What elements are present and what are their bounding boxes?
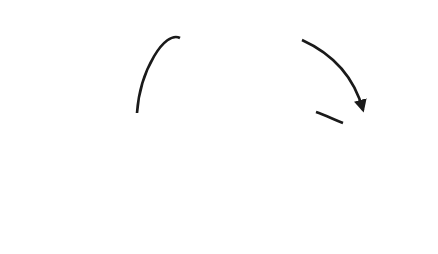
flow-diagram — [0, 0, 438, 254]
connector-supplier-to-merchandise — [316, 112, 343, 123]
arrow-merchandise-to-company-line — [178, 108, 180, 118]
arrow-merchandise-inventory-to-company — [177, 110, 178, 120]
connector-company-to-purchase-order — [137, 37, 180, 113]
arrow-merchandise-to-company — [178, 109, 189, 118]
arrow-purchase-order-to-supplier — [302, 40, 363, 110]
